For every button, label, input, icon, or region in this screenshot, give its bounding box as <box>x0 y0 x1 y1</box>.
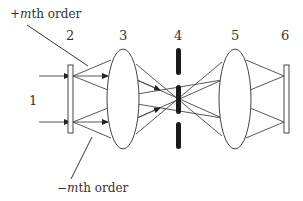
label-4: 4 <box>174 28 182 43</box>
label-2: 2 <box>66 28 74 43</box>
plus-order-leader-line <box>27 25 88 66</box>
plus-mth-order-label: +mth order <box>10 7 82 21</box>
lens-5 <box>219 49 251 149</box>
image-plane-element <box>284 65 289 133</box>
lens-3 <box>107 49 139 149</box>
minus-order-leader-line <box>71 137 92 179</box>
label-6: 6 <box>281 28 289 43</box>
label-5: 5 <box>231 28 239 43</box>
label-1: 1 <box>29 93 37 108</box>
rays-grating-to-lens-lower <box>73 108 111 138</box>
stop-bar-bottom <box>176 122 181 149</box>
rays-lens5-to-plane6 <box>246 60 284 138</box>
stop-bar-top <box>176 48 181 75</box>
rays-grating-to-lens-upper <box>73 60 111 90</box>
spatial-filter-stop <box>176 48 181 149</box>
grating-element <box>68 65 73 133</box>
minus-mth-order-label: −mth order <box>57 181 129 195</box>
label-3: 3 <box>119 28 127 43</box>
optical-diagram: +mth order −mth order 2 3 4 5 6 1 <box>0 0 303 201</box>
stop-bar-middle <box>176 85 181 114</box>
